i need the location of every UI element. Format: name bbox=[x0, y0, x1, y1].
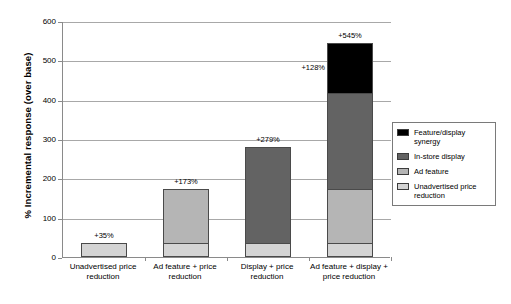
bar-segment-in-store-display[interactable] bbox=[327, 93, 373, 189]
bar-3[interactable]: +279% bbox=[245, 147, 291, 257]
y-axis-tick-label: 300 bbox=[26, 136, 56, 144]
bar-2[interactable]: +173% bbox=[163, 189, 209, 257]
y-axis-tick-label: 500 bbox=[26, 57, 56, 65]
bar-segment-feature-display-synergy[interactable] bbox=[327, 43, 373, 93]
x-axis-tick bbox=[227, 257, 228, 261]
legend-swatch-icon bbox=[397, 183, 409, 190]
legend-swatch-icon bbox=[397, 153, 409, 160]
y-axis-tick-label: 200 bbox=[26, 175, 56, 183]
category-label-line1: Ad feature + display + bbox=[301, 262, 397, 272]
legend-item-label: Unadvertised price reduction bbox=[414, 182, 491, 200]
category-label-4: Ad feature + display +price reduction bbox=[301, 262, 397, 281]
legend-item-label: Ad feature bbox=[414, 167, 449, 176]
legend-item-4[interactable]: Unadvertised price reduction bbox=[397, 182, 491, 200]
bar-total-label-3: +279% bbox=[233, 136, 303, 144]
bar-segment-unadvertised-price-reduction[interactable] bbox=[327, 243, 373, 257]
bar-1[interactable]: +35% bbox=[81, 243, 127, 257]
bar-segment-unadvertised-price-reduction[interactable] bbox=[245, 243, 291, 257]
chart-root: % Incremental response (over base) 60050… bbox=[0, 0, 511, 304]
legend-swatch-icon bbox=[397, 168, 409, 175]
y-axis-tick-label: 0 bbox=[26, 254, 56, 262]
bar-total-label-1: +35% bbox=[69, 232, 139, 240]
x-axis-tick bbox=[145, 257, 146, 261]
legend-item-label: In-store display bbox=[414, 152, 465, 161]
gridline bbox=[63, 22, 391, 23]
legend-item-label: Feature/display synergy bbox=[414, 128, 491, 146]
bar-total-label-4: +545% bbox=[315, 32, 385, 40]
bar-segment-in-store-display[interactable] bbox=[245, 147, 291, 243]
bar-segment-unadvertised-price-reduction[interactable] bbox=[163, 243, 209, 257]
x-axis-tick bbox=[391, 257, 392, 261]
x-axis-tick bbox=[309, 257, 310, 261]
plot-area: +35%+173%+279%+545%+128% bbox=[62, 22, 390, 258]
legend-item-2[interactable]: In-store display bbox=[397, 152, 491, 161]
legend-swatch-icon bbox=[397, 129, 409, 136]
bar-4[interactable]: +545% bbox=[327, 43, 373, 257]
category-label-line2: price reduction bbox=[301, 272, 397, 282]
legend: Feature/display synergyIn-store displayA… bbox=[392, 122, 496, 206]
legend-item-3[interactable]: Ad feature bbox=[397, 167, 491, 176]
bar-segment-ad-feature[interactable] bbox=[327, 189, 373, 243]
y-axis-tick-mark bbox=[58, 258, 62, 259]
legend-item-1[interactable]: Feature/display synergy bbox=[397, 128, 491, 146]
y-axis-tick-label: 100 bbox=[26, 215, 56, 223]
bar4-synergy-annotation: +128% bbox=[283, 64, 325, 72]
y-axis-tick-label: 600 bbox=[26, 18, 56, 26]
bar-segment-ad-feature[interactable] bbox=[163, 189, 209, 243]
y-axis-tick-label: 400 bbox=[26, 97, 56, 105]
bar-total-label-2: +173% bbox=[151, 178, 221, 186]
bar-segment-unadvertised-price-reduction[interactable] bbox=[81, 243, 127, 257]
